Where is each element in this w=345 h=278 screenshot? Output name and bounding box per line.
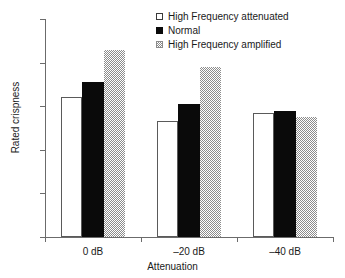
bar-20dB-series-1 [178, 104, 199, 237]
legend-item: High Frequency attenuated [156, 10, 341, 23]
legend-item: Normal [156, 24, 341, 37]
legend-swatch-icon [156, 27, 163, 34]
bar-0dB-series-0 [61, 97, 82, 237]
x-axis-title: Attenuation [0, 261, 345, 272]
x-axis-category-label: –20 dB [149, 246, 229, 257]
legend-swatch-icon [156, 41, 163, 48]
legend-swatch-icon [156, 13, 163, 20]
x-axis-tick [141, 238, 142, 242]
x-axis-category-label: –40 dB [245, 246, 325, 257]
legend-label: High Frequency attenuated [168, 11, 289, 22]
x-axis-category-label: 0 dB [53, 246, 133, 257]
bar-20dB-series-0 [157, 121, 178, 237]
chart-legend: High Frequency attenuatedNormalHigh Freq… [156, 10, 341, 52]
bar-chart-figure: 020406080100 Rated crispness 0 dB–20 dB–… [0, 0, 345, 278]
x-axis-tick [333, 238, 334, 242]
bar-0dB-series-2 [104, 50, 125, 237]
y-axis-title: Rated crispness [10, 48, 21, 188]
x-axis-tick [237, 238, 238, 242]
bar-40dB-series-1 [274, 111, 295, 237]
legend-label: High Frequency amplified [168, 39, 281, 50]
bar-40dB-series-2 [296, 117, 317, 237]
bar-0dB-series-1 [82, 82, 103, 237]
legend-item: High Frequency amplified [156, 38, 341, 51]
legend-label: Normal [168, 25, 200, 36]
bar-40dB-series-0 [253, 113, 274, 237]
x-axis-tick [45, 238, 46, 242]
x-axis-line [45, 237, 334, 238]
bar-20dB-series-2 [200, 67, 221, 237]
